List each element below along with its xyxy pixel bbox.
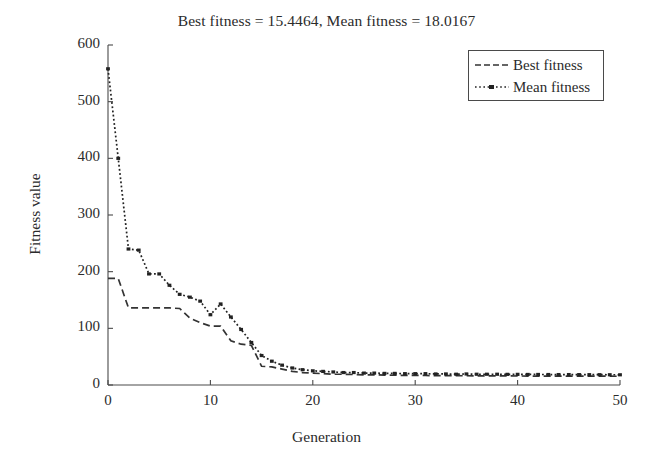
legend-swatch-dashed-line xyxy=(474,59,510,71)
series-marker-mean-fitness xyxy=(526,373,530,376)
y-tick-label: 0 xyxy=(54,375,100,392)
series-marker-mean-fitness xyxy=(362,372,366,375)
x-tick-label: 10 xyxy=(187,392,233,409)
series-marker-mean-fitness xyxy=(372,372,376,375)
series-marker-mean-fitness xyxy=(342,371,346,374)
series-marker-mean-fitness xyxy=(188,296,192,299)
series-line-best-fitness xyxy=(108,278,620,376)
series-marker-mean-fitness xyxy=(157,272,161,275)
series-marker-mean-fitness xyxy=(178,293,182,296)
series-marker-mean-fitness xyxy=(311,369,315,372)
x-tick-label: 20 xyxy=(290,392,336,409)
series-marker-mean-fitness xyxy=(116,157,120,160)
series-marker-mean-fitness xyxy=(557,373,561,376)
series-marker-mean-fitness xyxy=(475,373,479,376)
fitness-chart-figure: Best fitness = 15.4464, Mean fitness = 1… xyxy=(0,0,653,463)
series-marker-mean-fitness xyxy=(168,284,172,287)
series-marker-mean-fitness xyxy=(280,364,284,367)
series-marker-mean-fitness xyxy=(567,373,571,376)
series-marker-mean-fitness xyxy=(434,372,438,375)
series-marker-mean-fitness xyxy=(444,372,448,375)
series-marker-mean-fitness xyxy=(618,373,622,376)
y-tick-label: 200 xyxy=(54,262,100,279)
series-marker-mean-fitness xyxy=(331,370,335,373)
series-marker-mean-fitness xyxy=(239,328,243,331)
series-marker-mean-fitness xyxy=(485,373,489,376)
series-marker-mean-fitness xyxy=(260,354,264,357)
y-tick-label: 300 xyxy=(54,205,100,222)
x-tick-label: 50 xyxy=(597,392,643,409)
y-tick-label: 100 xyxy=(54,318,100,335)
series-marker-mean-fitness xyxy=(383,372,387,375)
series-marker-mean-fitness xyxy=(106,67,110,70)
y-tick-marks xyxy=(108,45,113,385)
series-marker-mean-fitness xyxy=(413,372,417,375)
series-marker-mean-fitness xyxy=(127,247,131,250)
series-marker-mean-fitness xyxy=(229,315,233,318)
series-marker-mean-fitness xyxy=(249,341,253,344)
y-tick-label: 400 xyxy=(54,148,100,165)
legend-label-best-fitness: Best fitness xyxy=(513,57,583,74)
series-marker-mean-fitness xyxy=(424,372,428,375)
series-marker-mean-fitness xyxy=(198,300,202,303)
legend: Best fitness Mean fitness xyxy=(468,50,604,101)
x-tick-label: 30 xyxy=(392,392,438,409)
series-marker-mean-fitness xyxy=(608,373,612,376)
y-axis-label: Fitness value xyxy=(26,144,44,284)
x-axis-label: Generation xyxy=(0,428,653,446)
series-marker-mean-fitness xyxy=(516,373,520,376)
legend-swatch-dash-dot-line xyxy=(474,81,510,93)
y-tick-label: 500 xyxy=(54,92,100,109)
series-marker-mean-fitness xyxy=(454,373,458,376)
series-marker-mean-fitness xyxy=(147,272,151,275)
series-marker-mean-fitness xyxy=(577,373,581,376)
series-marker-mean-fitness xyxy=(352,371,356,374)
legend-label-mean-fitness: Mean fitness xyxy=(513,79,590,96)
legend-item-best-fitness: Best fitness xyxy=(474,54,583,76)
data-series-layer xyxy=(106,67,622,376)
x-tick-marks xyxy=(108,380,620,385)
series-marker-mean-fitness xyxy=(505,373,509,376)
series-marker-mean-fitness xyxy=(536,373,540,376)
series-marker-mean-fitness xyxy=(270,360,274,363)
series-marker-mean-fitness xyxy=(546,373,550,376)
series-marker-mean-fitness xyxy=(209,313,213,316)
series-marker-mean-fitness xyxy=(495,373,499,376)
series-marker-mean-fitness xyxy=(465,372,469,375)
x-tick-label: 40 xyxy=(495,392,541,409)
series-marker-mean-fitness xyxy=(393,372,397,375)
series-marker-mean-fitness xyxy=(598,373,602,376)
legend-item-mean-fitness: Mean fitness xyxy=(474,76,590,98)
series-line-mean-fitness xyxy=(108,69,620,375)
series-marker-mean-fitness xyxy=(403,372,407,375)
y-tick-label: 600 xyxy=(54,35,100,52)
series-marker-mean-fitness xyxy=(290,366,294,369)
series-marker-mean-fitness xyxy=(301,368,305,371)
series-marker-mean-fitness xyxy=(321,370,325,373)
x-tick-label: 0 xyxy=(85,392,131,409)
series-marker-mean-fitness xyxy=(137,249,141,252)
series-marker-mean-fitness xyxy=(219,302,223,305)
series-marker-mean-fitness xyxy=(587,373,591,376)
